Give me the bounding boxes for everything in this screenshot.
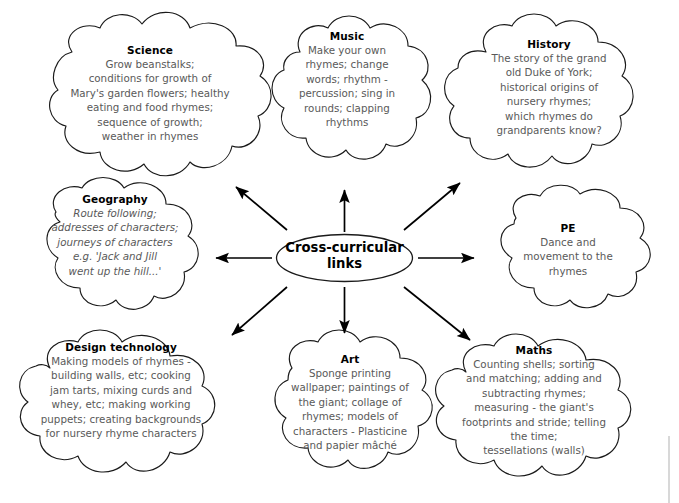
arrow-to-maths	[404, 287, 470, 340]
cloud-science	[50, 12, 271, 175]
scan-edge-artifact	[668, 436, 670, 503]
mind-map-canvas: Cross-curricular links Science Grow bean…	[0, 0, 679, 503]
arrow-to-history	[404, 183, 460, 230]
cloud-design-technology	[20, 330, 215, 472]
cloud-geography	[47, 178, 198, 310]
diagram-graphics	[0, 0, 679, 503]
cloud-maths	[436, 334, 631, 476]
arrow-to-design-technology	[232, 287, 287, 335]
cloud-pe	[501, 185, 650, 307]
center-node-ellipse	[277, 235, 413, 282]
cloud-history	[445, 14, 633, 167]
arrow-to-science	[236, 187, 287, 230]
cloud-art	[275, 330, 432, 468]
cloud-music	[272, 16, 431, 159]
